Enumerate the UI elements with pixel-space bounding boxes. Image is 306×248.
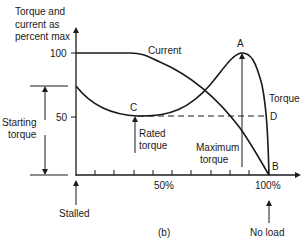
starting-torque-label-2: torque (8, 129, 37, 140)
starting-torque-label-1: Starting (2, 117, 36, 128)
point-d-label: D (270, 111, 277, 122)
y-tick-label-100: 100 (50, 48, 67, 59)
x-tick-label-100pct: 100% (255, 180, 281, 191)
current-curve (76, 53, 269, 175)
point-c-label: C (130, 102, 137, 113)
figure-caption: (b) (158, 227, 170, 238)
maximum-torque-label-1: Maximum (196, 142, 239, 153)
motor-characteristic-chart: Torque and current as percent max 100 50… (0, 0, 306, 248)
point-b-label: B (272, 161, 279, 172)
point-a-label: A (237, 38, 244, 49)
torque-series-label: Torque (269, 93, 300, 104)
rated-torque-label-1: Rated (139, 128, 166, 139)
x-ticks (95, 170, 249, 175)
y-tick-label-50: 50 (56, 112, 68, 123)
y-axis-label-line3: percent max (15, 31, 70, 42)
stalled-label: Stalled (59, 208, 90, 219)
no-load-label: No load (250, 227, 284, 238)
y-axis-label-line2: current as (15, 19, 59, 30)
rated-torque-label-2: torque (139, 140, 168, 151)
torque-curve (76, 53, 269, 175)
y-axis-label-line1: Torque and (15, 6, 65, 17)
current-series-label: Current (148, 45, 182, 56)
maximum-torque-label-2: torque (200, 154, 229, 165)
x-tick-label-50pct: 50% (154, 180, 174, 191)
